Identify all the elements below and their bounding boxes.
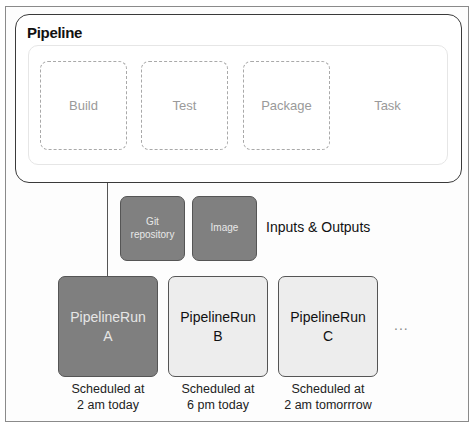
run-id: B (213, 327, 222, 346)
schedule-text: Scheduled at (292, 382, 365, 396)
resource-git-repository: Gitrepository (120, 196, 185, 261)
schedule-b: Scheduled at 6 pm today (158, 381, 278, 414)
run-title: PipelineRun (70, 308, 146, 327)
schedule-text: Scheduled at (182, 382, 255, 396)
run-title: PipelineRun (290, 308, 366, 327)
pipelinerun-c: PipelineRun C (278, 276, 378, 377)
task-generic: Task (344, 61, 431, 150)
schedule-c: Scheduled at 2 am tomorrrow (268, 381, 388, 414)
pipelinerun-a: PipelineRun A (58, 276, 158, 377)
task-package: Package (243, 61, 330, 150)
task-container: Build Test Package Task (28, 45, 448, 165)
more-runs-ellipsis: ... (394, 317, 409, 333)
schedule-text: Scheduled at (72, 382, 145, 396)
schedule-text: 2 am tomorrrow (284, 398, 372, 412)
schedule-text: 2 am today (77, 398, 139, 412)
resource-image: Image (192, 196, 257, 261)
pipeline-box: Pipeline Build Test Package Task (15, 14, 462, 183)
inputs-outputs-label: Inputs & Outputs (266, 219, 370, 235)
run-title: PipelineRun (180, 308, 256, 327)
task-test: Test (141, 61, 228, 150)
pipeline-title: Pipeline (27, 24, 82, 41)
resource-label: repository (131, 229, 175, 240)
connector-line (107, 183, 108, 276)
task-build: Build (40, 61, 127, 150)
resource-label: Git (146, 216, 159, 227)
resource-label: Image (211, 222, 239, 235)
run-id: A (103, 327, 112, 346)
pipelinerun-b: PipelineRun B (168, 276, 268, 377)
schedule-text: 6 pm today (187, 398, 249, 412)
schedule-a: Scheduled at 2 am today (48, 381, 168, 414)
run-id: C (323, 327, 333, 346)
